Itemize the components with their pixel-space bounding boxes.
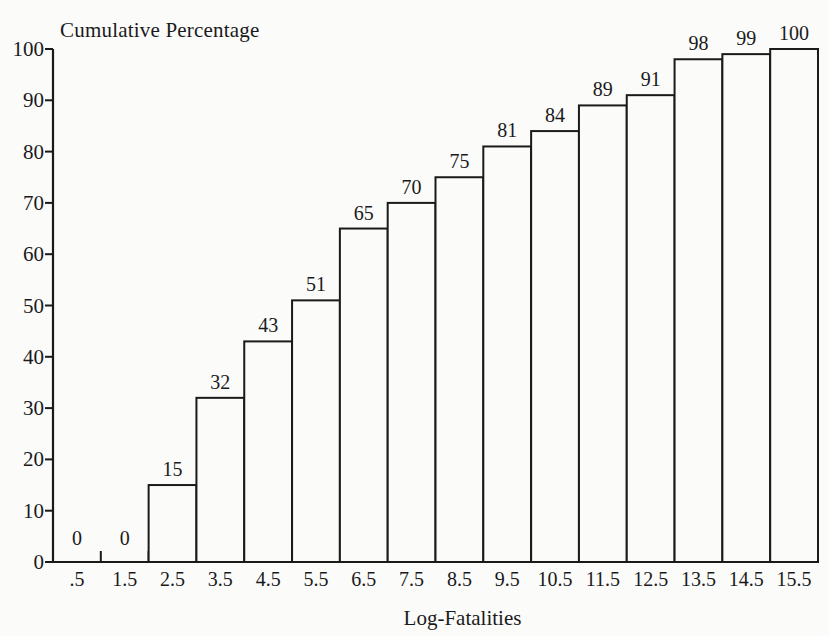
bar: [388, 203, 436, 562]
bar: [340, 229, 388, 562]
bar-value-label: 65: [354, 202, 374, 225]
x-axis-tick-label: 9.5: [495, 568, 520, 591]
bar-value-label: 84: [545, 104, 565, 127]
x-axis-tick-label: 1.5: [112, 568, 137, 591]
y-axis-tick-label: 60: [0, 242, 44, 267]
x-axis-tick-label: .5: [69, 568, 84, 591]
x-axis-tick-label: 6.5: [351, 568, 376, 591]
x-axis-tick-label: 13.5: [681, 568, 716, 591]
y-axis-tick-label: 70: [0, 190, 44, 215]
x-axis-title: Log-Fatalities: [0, 606, 829, 631]
chart-figure: Cumulative Percentage 010203040506070809…: [0, 0, 829, 636]
bar-value-label: 75: [449, 150, 469, 173]
bar: [579, 105, 627, 562]
y-axis-tick-label: 0: [0, 550, 44, 575]
y-axis-tick-label: 10: [0, 498, 44, 523]
y-axis-tick-label: 30: [0, 396, 44, 421]
x-axis-tick-label: 8.5: [447, 568, 472, 591]
bar-value-label: 89: [593, 78, 613, 101]
x-axis-tick-label: 10.5: [538, 568, 573, 591]
bar-value-label: 32: [210, 371, 230, 394]
bar-value-label: 99: [736, 27, 756, 50]
x-axis-title-text: Log-Fatalities: [404, 606, 522, 630]
x-axis-tick-label: 5.5: [303, 568, 328, 591]
bar: [244, 341, 292, 562]
x-axis-tick-label: 2.5: [160, 568, 185, 591]
bar-value-label: 98: [688, 32, 708, 55]
y-axis-tick-label: 80: [0, 139, 44, 164]
x-axis-tick-label: 12.5: [633, 568, 668, 591]
bar-value-label: 81: [497, 119, 517, 142]
bar-value-label: 15: [163, 458, 183, 481]
bar: [196, 398, 244, 562]
x-axis-tick-label: 11.5: [586, 568, 620, 591]
bar: [483, 146, 531, 562]
y-axis-tick-label: 20: [0, 447, 44, 472]
bar-value-label: 91: [641, 68, 661, 91]
bar-value-label: 100: [779, 22, 809, 45]
bar-value-label: 70: [402, 176, 422, 199]
y-axis-tick-label: 100: [0, 37, 44, 62]
bar: [722, 54, 770, 562]
bar-value-label: 51: [306, 273, 326, 296]
y-axis-tick-label: 90: [0, 88, 44, 113]
x-axis-tick-label: 4.5: [256, 568, 281, 591]
bar: [149, 485, 197, 562]
bar: [436, 177, 484, 562]
bar-value-label: 0: [72, 527, 82, 550]
y-axis-tick-label: 50: [0, 293, 44, 318]
bar: [770, 49, 818, 562]
x-axis-tick-label: 7.5: [399, 568, 424, 591]
bar: [292, 300, 340, 562]
x-axis-tick-label: 3.5: [208, 568, 233, 591]
bar: [627, 95, 675, 562]
y-axis-tick-label: 40: [0, 344, 44, 369]
bar: [531, 131, 579, 562]
x-axis-tick-label: 15.5: [777, 568, 812, 591]
x-axis-tick-label: 14.5: [729, 568, 764, 591]
bar: [675, 59, 723, 562]
bar-value-label: 43: [258, 314, 278, 337]
bar-value-label: 0: [120, 527, 130, 550]
